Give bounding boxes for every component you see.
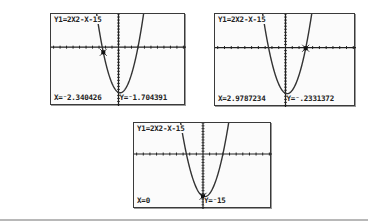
- calculator-screen-1: Y1=2X2-X-15 X=⁻2.340426 Y=⁻1.704391: [50, 13, 185, 105]
- x-readout: X=⁻2.340426: [54, 94, 101, 102]
- equation-label: Y1=2X2-X-15: [54, 16, 101, 24]
- equation-label: Y1=2X2-X-15: [218, 16, 265, 24]
- x-readout: X=2.9787234: [218, 95, 265, 103]
- y-readout: Y=⁻1.704391: [120, 94, 167, 102]
- x-readout: X=0: [137, 197, 150, 205]
- graph-plot: [134, 123, 272, 209]
- calculator-screen-2: Y1=2X2-X-15 X=2.9787234 Y=⁻.2331372: [214, 13, 355, 106]
- page-divider: [0, 219, 368, 221]
- y-readout: Y=⁻15: [204, 197, 226, 205]
- y-readout: Y=⁻.2331372: [287, 95, 334, 103]
- calculator-screen-3: Y1=2X2-X-15 X=0 Y=⁻15: [133, 122, 271, 208]
- equation-label: Y1=2X2-X-15: [137, 125, 184, 133]
